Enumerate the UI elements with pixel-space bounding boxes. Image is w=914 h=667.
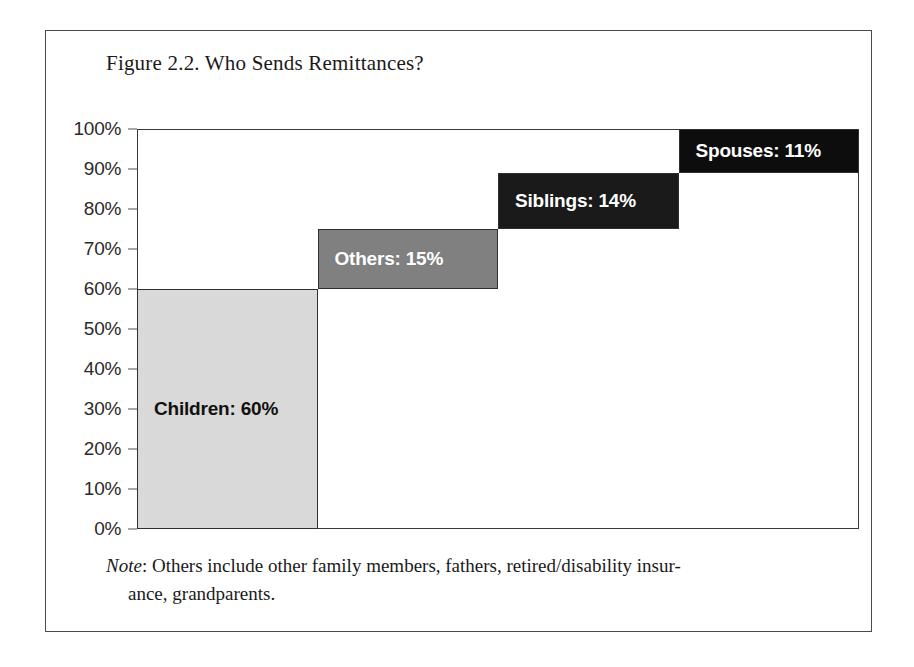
y-axis-tick-label: 10% bbox=[84, 478, 137, 500]
y-axis-tick-label: 60% bbox=[84, 278, 137, 300]
chart-plot-area: 0%10%20%30%40%50%60%70%80%90%100% Childr… bbox=[137, 129, 859, 529]
bar-siblings[interactable]: Siblings: 14% bbox=[498, 173, 679, 229]
note-line-2: ance, grandparents. bbox=[106, 580, 846, 608]
y-axis-tick-label: 40% bbox=[84, 358, 137, 380]
bar-spouses[interactable]: Spouses: 11% bbox=[679, 129, 860, 173]
bar-label-children: Children: 60% bbox=[138, 398, 278, 420]
y-axis-tick-label: 70% bbox=[84, 238, 137, 260]
note-label: Note bbox=[106, 555, 142, 576]
figure-frame: Figure 2.2. Who Sends Remittances? 0%10%… bbox=[45, 30, 872, 632]
y-axis-tick-label: 100% bbox=[74, 118, 137, 140]
figure-title: Figure 2.2. Who Sends Remittances? bbox=[106, 51, 424, 76]
y-axis-tick-label: 90% bbox=[84, 158, 137, 180]
bar-label-others: Others: 15% bbox=[319, 248, 444, 270]
note-line-1: Others include other family members, fat… bbox=[152, 555, 681, 576]
bar-children[interactable]: Children: 60% bbox=[137, 289, 318, 529]
y-axis-tick-label: 20% bbox=[84, 438, 137, 460]
note-separator: : bbox=[142, 555, 152, 576]
y-axis-tick-label: 80% bbox=[84, 198, 137, 220]
y-axis-tick-label: 50% bbox=[84, 318, 137, 340]
bar-label-siblings: Siblings: 14% bbox=[499, 190, 636, 212]
bar-label-spouses: Spouses: 11% bbox=[680, 140, 821, 162]
y-axis-tick-label: 0% bbox=[94, 518, 137, 540]
figure-note: Note: Others include other family member… bbox=[106, 552, 846, 607]
bar-others[interactable]: Others: 15% bbox=[318, 229, 499, 289]
y-axis-tick-label: 30% bbox=[84, 398, 137, 420]
